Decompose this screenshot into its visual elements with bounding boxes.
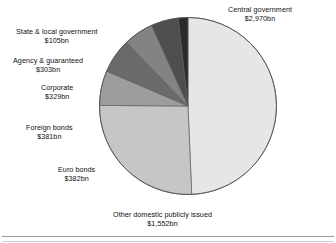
slice-label-value: $2,970bn: [228, 15, 292, 24]
slice-label-central-government: Central government $2,970bn: [228, 6, 292, 23]
slice-label-value: $303bn: [13, 66, 83, 75]
pie-slice-group: [99, 17, 276, 194]
slice-label-corporate: Corporate $329bn: [41, 84, 73, 101]
slice-label-value: $381bn: [26, 133, 73, 142]
slice-label-value: $105bn: [16, 37, 98, 46]
slice-label-value: $1,552bn: [113, 220, 212, 229]
footer-divider-secondary: [2, 241, 334, 242]
pie-chart-figure: Central government $2,970bn State & loca…: [0, 0, 336, 243]
slice-label-value: $382bn: [58, 175, 95, 184]
pie-slice: [188, 18, 276, 195]
slice-label-state-local-government: State & local government $105bn: [16, 28, 98, 45]
pie-slice: [99, 105, 191, 194]
slice-label-value: $329bn: [41, 93, 73, 102]
slice-label-euro-bonds: Euro bonds $382bn: [58, 166, 95, 183]
slice-label-agency-guaranteed: Agency & guaranteed $303bn: [13, 57, 83, 74]
slice-label-foreign-bonds: Foreign bonds $381bn: [26, 124, 73, 141]
slice-label-other-domestic-publicly-issued: Other domestic publicly issued $1,552bn: [113, 211, 212, 228]
footer-divider: [2, 236, 334, 237]
